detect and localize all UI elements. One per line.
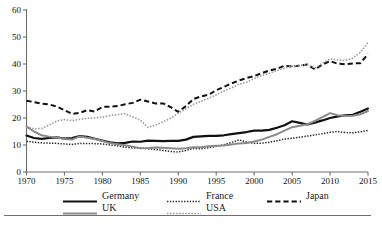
legend-swatch-japan [267, 192, 301, 201]
legend-item-france[interactable]: France [167, 191, 267, 201]
legend-label-japan: Japan [306, 191, 329, 201]
x-tick-label: 2005 [277, 177, 307, 186]
x-tick-label: 1995 [201, 177, 231, 186]
legend-label-uk: UK [102, 203, 116, 213]
x-tick-label: 1975 [49, 177, 79, 186]
x-tick-label: 1985 [125, 177, 155, 186]
legend-label-france: France [206, 191, 233, 201]
y-tick-label: 50 [3, 33, 21, 42]
chart-legend: GermanyFranceJapanUKUSA [63, 190, 363, 214]
y-tick-label: 10 [3, 141, 21, 150]
legend-row: GermanyFranceJapan [63, 190, 363, 202]
legend-swatch-germany [63, 192, 97, 201]
x-tick-label: 2000 [239, 177, 269, 186]
x-tick-label: 1990 [163, 177, 193, 186]
legend-item-uk[interactable]: UK [63, 203, 167, 213]
legend-swatch-usa [167, 204, 201, 213]
x-tick-label: 2010 [315, 177, 345, 186]
legend-swatch-uk [63, 204, 97, 213]
chart-series-layer [27, 42, 369, 152]
legend-label-germany: Germany [102, 191, 139, 201]
y-tick-label: 60 [3, 6, 21, 15]
legend-item-japan[interactable]: Japan [267, 191, 363, 201]
legend-label-usa: USA [206, 203, 226, 213]
legend-item-germany[interactable]: Germany [63, 191, 167, 201]
x-tick-label: 1980 [87, 177, 117, 186]
series-line-japan [27, 54, 369, 114]
y-tick-label: 20 [3, 114, 21, 123]
y-tick-label: 40 [3, 60, 21, 69]
legend-row: UKUSA [63, 202, 363, 214]
legend-item-usa[interactable]: USA [167, 203, 267, 213]
x-tick-label: 2015 [353, 177, 382, 186]
footer-cut-text [8, 217, 368, 224]
footer-divider [4, 215, 371, 216]
chart-axes [23, 9, 368, 176]
y-tick-label: 30 [3, 87, 21, 96]
x-tick-label: 1970 [12, 177, 42, 186]
series-line-usa [27, 42, 369, 129]
legend-swatch-france [167, 192, 201, 201]
series-line-france [27, 130, 369, 152]
